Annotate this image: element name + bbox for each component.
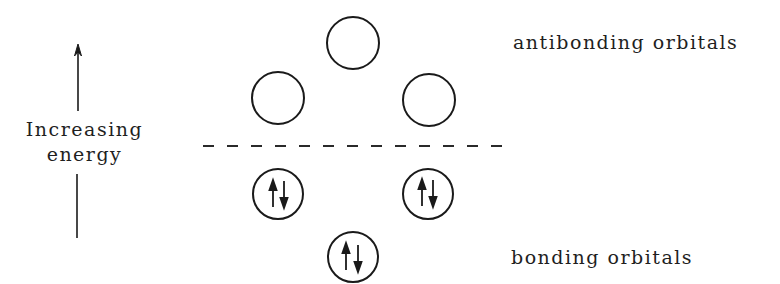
energy-axis-label-line2: energy (12, 142, 157, 167)
antibonding-orbitals-label: antibonding orbitals (513, 31, 738, 53)
electron-pair-icon (419, 179, 437, 207)
electron-pair-icon (343, 243, 362, 272)
bonding-orbitals-label: bonding orbitals (511, 246, 693, 268)
mo-energy-diagram: Increasing energy antibonding orbitals b… (0, 0, 780, 284)
antibonding-orbital-right (403, 74, 455, 126)
energy-arrow-up-icon (75, 44, 82, 111)
bonding-orbital-bottom (328, 232, 378, 282)
electron-pair-icon (270, 180, 288, 208)
antibonding-orbital-top (327, 17, 379, 69)
energy-axis-label-line1: Increasing (12, 117, 157, 142)
bonding-orbital-right (403, 169, 453, 219)
antibonding-orbital-left (252, 72, 304, 124)
bonding-orbital-left (253, 169, 303, 219)
energy-axis-label: Increasing energy (12, 117, 157, 167)
